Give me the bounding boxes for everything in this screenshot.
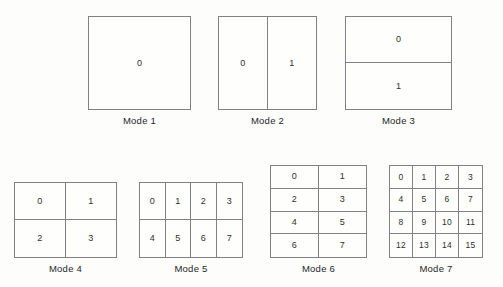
diagram-canvas: 0 Mode 1 01 Mode 2 01 Mode 3 0123 Mode 4… xyxy=(0,0,503,287)
partition-cell: 1 xyxy=(413,166,436,189)
partition-cell: 3 xyxy=(66,220,117,257)
partition-cell: 0 xyxy=(390,166,413,189)
partition-cell: 4 xyxy=(390,189,413,212)
partition-cell: 1 xyxy=(346,63,451,109)
partition-cell: 4 xyxy=(271,212,319,235)
partition-cell: 8 xyxy=(390,212,413,235)
partition-cell: 1 xyxy=(319,166,367,189)
mode-caption-1: Mode 1 xyxy=(88,115,191,126)
mode-figure-5: 01234567 Mode 5 xyxy=(139,182,243,274)
mode-caption-7: Mode 7 xyxy=(389,263,483,274)
partition-grid-6: 01234567 xyxy=(270,165,367,258)
partition-cell: 0 xyxy=(89,17,190,109)
partition-cell: 6 xyxy=(271,234,319,257)
mode-figure-4: 0123 Mode 4 xyxy=(14,182,117,274)
partition-cell: 14 xyxy=(436,234,459,257)
partition-cell: 15 xyxy=(459,234,482,257)
mode-figure-3: 01 Mode 3 xyxy=(345,16,452,126)
partition-cell: 10 xyxy=(436,212,459,235)
partition-cell: 7 xyxy=(459,189,482,212)
mode-figure-6: 01234567 Mode 6 xyxy=(270,165,367,274)
partition-cell: 2 xyxy=(436,166,459,189)
partition-cell: 0 xyxy=(271,166,319,189)
partition-grid-2: 01 xyxy=(218,16,317,110)
partition-cell: 9 xyxy=(413,212,436,235)
partition-cell: 3 xyxy=(217,183,243,220)
mode-caption-6: Mode 6 xyxy=(270,263,367,274)
partition-cell: 0 xyxy=(346,17,451,63)
partition-cell: 3 xyxy=(319,189,367,212)
mode-caption-2: Mode 2 xyxy=(218,115,317,126)
partition-cell: 5 xyxy=(319,212,367,235)
partition-grid-4: 0123 xyxy=(14,182,117,258)
partition-cell: 2 xyxy=(271,189,319,212)
partition-cell: 1 xyxy=(166,183,192,220)
partition-cell: 5 xyxy=(166,220,192,257)
partition-cell: 0 xyxy=(219,17,268,109)
mode-figure-2: 01 Mode 2 xyxy=(218,16,317,126)
partition-cell: 3 xyxy=(459,166,482,189)
mode-figure-7: 0123456789101112131415 Mode 7 xyxy=(389,165,483,274)
partition-cell: 6 xyxy=(436,189,459,212)
partition-cell: 1 xyxy=(268,17,317,109)
partition-grid-5: 01234567 xyxy=(139,182,243,258)
partition-cell: 6 xyxy=(191,220,217,257)
mode-caption-3: Mode 3 xyxy=(345,115,452,126)
partition-grid-7: 0123456789101112131415 xyxy=(389,165,483,258)
partition-cell: 7 xyxy=(319,234,367,257)
partition-cell: 0 xyxy=(140,183,166,220)
mode-figure-1: 0 Mode 1 xyxy=(88,16,191,126)
partition-cell: 2 xyxy=(191,183,217,220)
partition-cell: 0 xyxy=(15,183,66,220)
partition-cell: 5 xyxy=(413,189,436,212)
partition-cell: 12 xyxy=(390,234,413,257)
mode-caption-4: Mode 4 xyxy=(14,263,117,274)
partition-cell: 4 xyxy=(140,220,166,257)
partition-cell: 11 xyxy=(459,212,482,235)
mode-caption-5: Mode 5 xyxy=(139,263,243,274)
partition-cell: 7 xyxy=(217,220,243,257)
partition-grid-3: 01 xyxy=(345,16,452,110)
partition-cell: 1 xyxy=(66,183,117,220)
partition-cell: 2 xyxy=(15,220,66,257)
partition-cell: 13 xyxy=(413,234,436,257)
partition-grid-1: 0 xyxy=(88,16,191,110)
